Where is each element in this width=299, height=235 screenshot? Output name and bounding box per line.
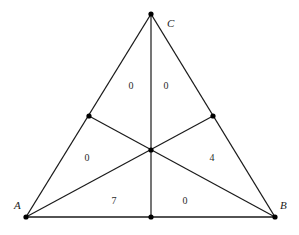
triangle-diagram: A B C 0 0 0 4 7 0 — [0, 0, 299, 235]
region-values: 0 0 0 4 7 0 — [85, 80, 215, 206]
vertex-label-b: B — [280, 199, 287, 211]
region-value-lower-left: 7 — [112, 195, 117, 206]
region-value-upper-right: 0 — [164, 80, 169, 91]
midpoint-bc-dot — [210, 113, 215, 118]
vertex-a-dot — [23, 214, 28, 219]
midpoint-ac-dot — [86, 113, 91, 118]
region-value-middle-left: 0 — [85, 152, 90, 163]
midpoint-ab-dot — [148, 214, 153, 219]
region-value-lower-right: 0 — [183, 195, 188, 206]
vertex-labels: A B C — [13, 17, 287, 211]
region-value-upper-left: 0 — [129, 80, 134, 91]
vertex-label-c: C — [167, 17, 175, 29]
centroid-dot — [148, 147, 153, 152]
medians — [26, 14, 275, 217]
region-value-middle-right: 4 — [210, 152, 215, 163]
vertex-label-a: A — [13, 199, 21, 211]
vertex-c-dot — [148, 11, 153, 16]
vertex-b-dot — [272, 214, 277, 219]
